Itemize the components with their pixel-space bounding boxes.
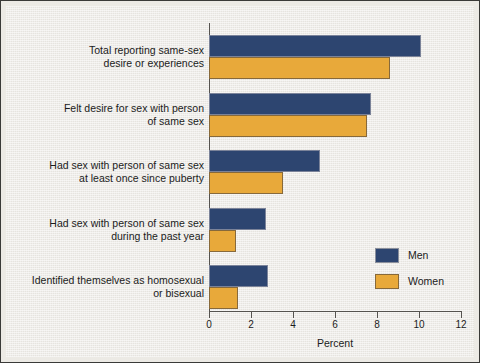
- x-tick-0: [209, 312, 210, 318]
- x-tick-label-12: 12: [449, 319, 473, 330]
- category-label-line: Identified themselves as homosexual: [9, 274, 204, 287]
- bar-men-2: [209, 93, 371, 115]
- legend-label-women: Women: [408, 275, 444, 287]
- category-label-line: at least once since puberty: [9, 172, 204, 185]
- category-label-line: Had sex with person of same sex: [9, 217, 204, 230]
- legend-item-men: Men: [375, 245, 444, 265]
- legend-swatch-men: [375, 248, 399, 263]
- chart-legend: MenWomen: [375, 245, 444, 297]
- bar-men-1: [209, 35, 421, 57]
- category-label-line: Had sex with person of same sex: [9, 159, 204, 172]
- category-label-2: Felt desire for sex with personof same s…: [9, 102, 204, 127]
- bar-men-4: [209, 208, 266, 230]
- x-tick-4: [293, 312, 294, 318]
- x-tick-label-10: 10: [407, 319, 431, 330]
- x-tick-2: [251, 312, 252, 318]
- category-label-line: Total reporting same-sex: [9, 44, 204, 57]
- x-tick-label-4: 4: [281, 319, 305, 330]
- x-tick-label-0: 0: [197, 319, 221, 330]
- x-tick-6: [335, 312, 336, 318]
- bar-women-3: [209, 172, 283, 194]
- category-label-line: Felt desire for sex with person: [9, 102, 204, 115]
- bar-men-5: [209, 265, 268, 287]
- bar-women-2: [209, 115, 367, 137]
- category-label-1: Total reporting same-sexdesire or experi…: [9, 44, 204, 69]
- category-label-line: desire or experiences: [9, 57, 204, 70]
- bar-men-3: [209, 150, 320, 172]
- legend-label-men: Men: [408, 249, 428, 261]
- legend-item-women: Women: [375, 271, 444, 291]
- x-tick-8: [377, 312, 378, 318]
- category-label-line: of same sex: [9, 115, 204, 128]
- x-tick-label-8: 8: [365, 319, 389, 330]
- x-tick-label-6: 6: [323, 319, 347, 330]
- x-axis-label: Percent: [209, 337, 461, 349]
- bar-women-1: [209, 57, 390, 79]
- category-label-3: Had sex with person of same sexat least …: [9, 159, 204, 184]
- bar-women-5: [209, 287, 238, 309]
- category-label-line: during the past year: [9, 230, 204, 243]
- bar-women-4: [209, 230, 236, 252]
- category-label-line: or bisexual: [9, 287, 204, 300]
- category-label-4: Had sex with person of same sexduring th…: [9, 217, 204, 242]
- x-tick-10: [419, 312, 420, 318]
- x-tick-label-2: 2: [239, 319, 263, 330]
- chart-figure: Total reporting same-sexdesire or experi…: [0, 0, 480, 363]
- x-tick-12: [461, 312, 462, 318]
- legend-swatch-women: [375, 274, 399, 289]
- category-label-5: Identified themselves as homosexualor bi…: [9, 274, 204, 299]
